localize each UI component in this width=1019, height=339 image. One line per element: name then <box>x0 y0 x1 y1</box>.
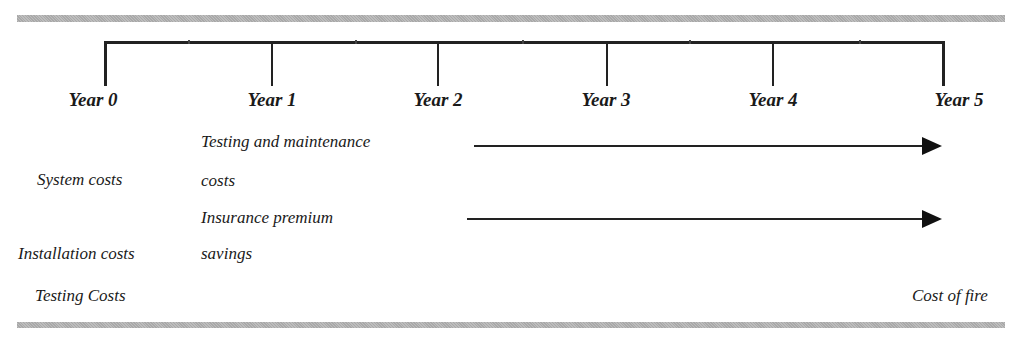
year-label-3: Year 3 <box>581 89 630 111</box>
tick-year-1 <box>271 41 273 86</box>
minor-tick <box>689 40 691 44</box>
cost-of-fire-label: Cost of fire <box>912 286 988 306</box>
testing-maintenance-arrow <box>474 145 940 147</box>
year-label-5: Year 5 <box>934 89 983 111</box>
testing-maintenance-label-line1: Testing and maintenance <box>201 132 370 152</box>
tick-year-5 <box>942 41 945 86</box>
tick-year-0 <box>104 41 107 86</box>
system-costs-label: System costs <box>37 170 122 190</box>
minor-tick <box>522 40 524 44</box>
minor-tick <box>188 40 190 44</box>
year-label-1: Year 1 <box>247 89 296 111</box>
year-label-2: Year 2 <box>413 89 462 111</box>
bottom-rule <box>17 322 1005 328</box>
year-label-4: Year 4 <box>748 89 797 111</box>
top-rule <box>17 15 1005 22</box>
arrowhead-icon <box>922 137 942 155</box>
installation-costs-label: Installation costs <box>18 244 135 264</box>
minor-tick <box>859 40 861 44</box>
year-label-0: Year 0 <box>68 89 117 111</box>
insurance-savings-label-line1: Insurance premium <box>201 208 333 228</box>
tick-year-3 <box>606 41 608 86</box>
tick-year-2 <box>437 41 439 86</box>
tick-year-4 <box>772 41 774 86</box>
insurance-savings-arrow <box>467 218 940 220</box>
minor-tick <box>355 40 357 44</box>
testing-maintenance-label-line2: costs <box>201 171 235 191</box>
testing-costs-label: Testing Costs <box>35 286 126 306</box>
arrowhead-icon <box>922 210 942 228</box>
timeline-axis <box>104 41 945 44</box>
insurance-savings-label-line2: savings <box>201 244 252 264</box>
